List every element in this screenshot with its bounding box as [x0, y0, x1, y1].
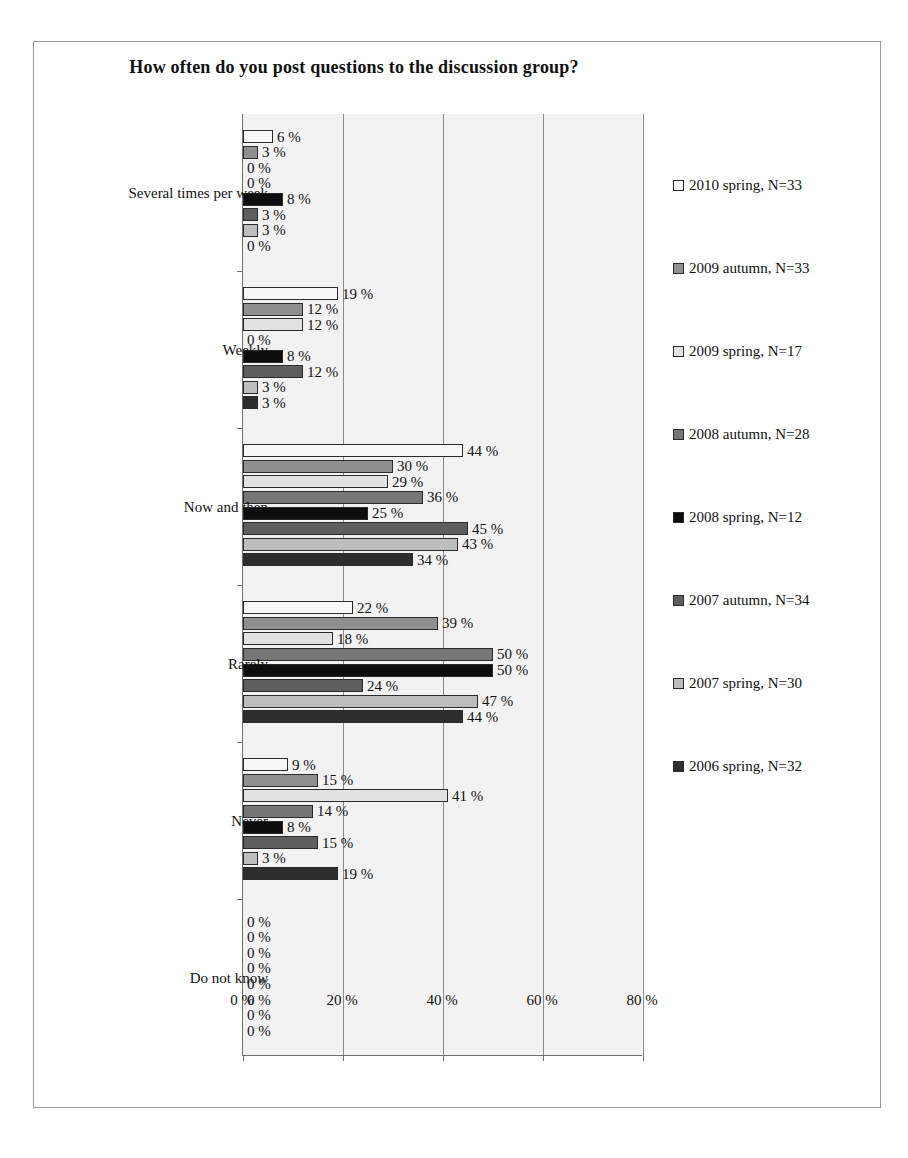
legend-swatch-icon: [673, 429, 684, 440]
bar-value-label: 8 %: [287, 819, 311, 836]
bar-value-label: 0 %: [247, 929, 271, 946]
bar-value-label: 15 %: [322, 772, 353, 789]
x-axis-tick: [543, 1055, 544, 1061]
legend-label: 2007 autumn, N=34: [689, 592, 810, 609]
bar: [243, 491, 423, 504]
x-axis-tick: [343, 1055, 344, 1061]
bar: [243, 130, 273, 143]
x-axis-tick: [443, 1055, 444, 1061]
bar-value-label: 36 %: [427, 489, 458, 506]
legend-label: 2006 spring, N=32: [689, 758, 802, 775]
legend-item[interactable]: 2008 autumn, N=28: [673, 426, 810, 443]
y-axis-tick: [237, 742, 243, 743]
x-gridline: [643, 114, 644, 1055]
bar-value-label: 14 %: [317, 803, 348, 820]
bar-value-label: 45 %: [472, 520, 503, 537]
bar-value-label: 0 %: [247, 976, 271, 993]
legend-label: 2010 spring, N=33: [689, 177, 802, 194]
x-axis-tick-label: 80 %: [626, 992, 657, 1009]
y-axis-tick: [237, 428, 243, 429]
bar-value-label: 3 %: [262, 394, 286, 411]
legend-item[interactable]: 2007 spring, N=30: [673, 675, 802, 692]
legend-item[interactable]: 2006 spring, N=32: [673, 758, 802, 775]
bar: [243, 632, 333, 645]
bar: [243, 146, 258, 159]
bar: [243, 648, 493, 661]
bar-value-label: 15 %: [322, 834, 353, 851]
legend-swatch-icon: [673, 761, 684, 772]
legend-label: 2009 spring, N=17: [689, 343, 802, 360]
legend-swatch-icon: [673, 512, 684, 523]
bar-value-label: 0 %: [247, 944, 271, 961]
bar: [243, 444, 463, 457]
bar-value-label: 30 %: [397, 458, 428, 475]
bar-value-label: 47 %: [482, 693, 513, 710]
x-axis-tick: [243, 1055, 244, 1061]
y-axis-tick: [237, 585, 243, 586]
bar-value-label: 50 %: [497, 662, 528, 679]
legend-label: 2008 spring, N=12: [689, 509, 802, 526]
y-axis-tick: [237, 899, 243, 900]
bar-value-label: 0 %: [247, 332, 271, 349]
bar-value-label: 19 %: [342, 865, 373, 882]
bar: [243, 679, 363, 692]
legend-swatch-icon: [673, 595, 684, 606]
bar-value-label: 0 %: [247, 913, 271, 930]
bar-value-label: 50 %: [497, 646, 528, 663]
bar: [243, 208, 258, 221]
legend-swatch-icon: [673, 678, 684, 689]
bar-value-label: 3 %: [262, 850, 286, 867]
legend-item[interactable]: 2009 autumn, N=33: [673, 260, 810, 277]
legend-item[interactable]: 2007 autumn, N=34: [673, 592, 810, 609]
bar-value-label: 39 %: [442, 615, 473, 632]
bar-value-label: 12 %: [307, 301, 338, 318]
bar: [243, 365, 303, 378]
chart-title: How often do you post questions to the d…: [34, 57, 674, 78]
bar: [243, 789, 448, 802]
bar: [243, 774, 318, 787]
category-label: Never: [231, 812, 268, 829]
legend-swatch-icon: [673, 346, 684, 357]
bar: [243, 475, 388, 488]
legend-label: 2008 autumn, N=28: [689, 426, 810, 443]
bar-value-label: 22 %: [357, 599, 388, 616]
x-gridline: [543, 114, 544, 1055]
bar-value-label: 44 %: [467, 442, 498, 459]
legend-swatch-icon: [673, 180, 684, 191]
bar-value-label: 3 %: [262, 144, 286, 161]
bar: [243, 867, 338, 880]
bar-value-label: 0 %: [247, 237, 271, 254]
bar: [243, 852, 258, 865]
bar-value-label: 18 %: [337, 630, 368, 647]
bar: [243, 836, 318, 849]
legend-item[interactable]: 2008 spring, N=12: [673, 509, 802, 526]
bar-value-label: 0 %: [247, 960, 271, 977]
bar-value-label: 3 %: [262, 222, 286, 239]
bar: [243, 287, 338, 300]
bar-value-label: 34 %: [417, 551, 448, 568]
bar-value-label: 3 %: [262, 379, 286, 396]
bar: [243, 538, 458, 551]
chart-frame: How often do you post questions to the d…: [33, 41, 881, 1108]
bar-value-label: 0 %: [247, 1007, 271, 1024]
bar: [243, 664, 493, 677]
bar: [243, 601, 353, 614]
bar-value-label: 24 %: [367, 677, 398, 694]
bar: [243, 758, 288, 771]
category-label: Rarely: [228, 655, 268, 672]
x-axis-tick-label: 40 %: [426, 992, 457, 1009]
bar-value-label: 44 %: [467, 708, 498, 725]
bar-value-label: 8 %: [287, 348, 311, 365]
bar: [243, 318, 303, 331]
legend-item[interactable]: 2009 spring, N=17: [673, 343, 802, 360]
legend-item[interactable]: 2010 spring, N=33: [673, 177, 802, 194]
bar: [243, 617, 438, 630]
bar: [243, 695, 478, 708]
screenshot-page: How often do you post questions to the d…: [0, 0, 908, 1158]
bar: [243, 303, 303, 316]
bar: [243, 396, 258, 409]
plot-area: [242, 114, 642, 1056]
x-gridline: [343, 114, 344, 1055]
bar-value-label: 9 %: [292, 756, 316, 773]
bar-value-label: 0 %: [247, 1022, 271, 1039]
